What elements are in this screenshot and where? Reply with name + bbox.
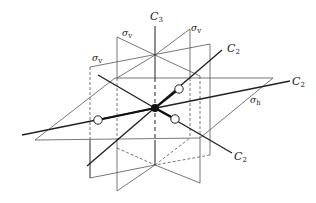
label-sigma-h: σh: [250, 95, 261, 107]
outer-atom-left: [94, 116, 102, 124]
label-c2-right: C2: [292, 75, 305, 89]
outer-atom-lower-right: [171, 115, 179, 123]
label-c2-lower-right: C2: [234, 150, 247, 164]
label-c3: C3: [150, 10, 163, 24]
symmetry-elements-diagram: C3 C2 C2 C2 σv σv σv σh: [0, 0, 316, 203]
central-atom: [151, 104, 159, 112]
label-c2-upper-right: C2: [227, 42, 240, 56]
label-sigma-v-top-right: σv: [191, 23, 201, 35]
outer-atom-upper-right: [175, 85, 183, 93]
label-sigma-v-top-left: σv: [122, 28, 132, 40]
sigma-v-plane-right: [117, 29, 190, 165]
label-sigma-v-left: σv: [92, 53, 102, 65]
molecular-bonds: [98, 89, 179, 120]
labels: C3 C2 C2 C2 σv σv σv σh: [92, 10, 305, 164]
